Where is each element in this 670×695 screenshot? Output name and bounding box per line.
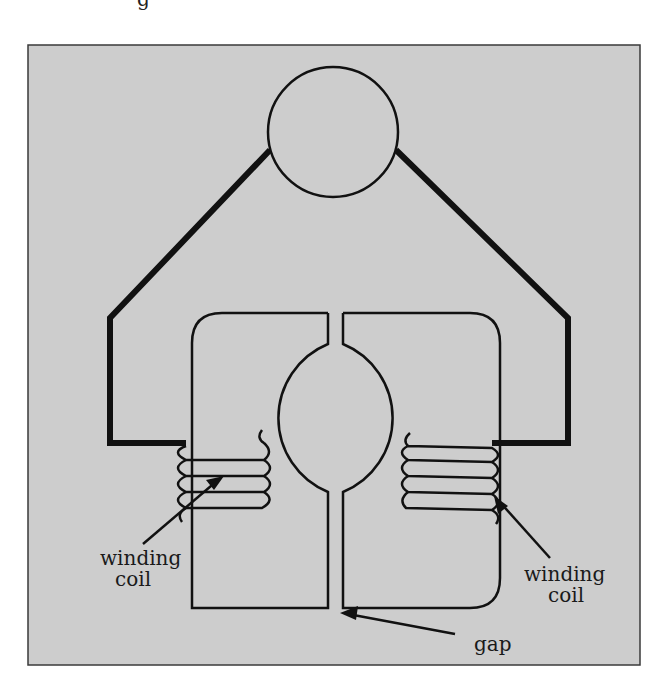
left-coil-label-line2: coil — [115, 567, 151, 591]
top-text-fragment: g — [137, 0, 150, 11]
diagram-canvas: g winding coil winding coil — [0, 0, 670, 695]
right-coil-label-line2: coil — [548, 583, 584, 607]
gap-label: gap — [474, 632, 512, 656]
